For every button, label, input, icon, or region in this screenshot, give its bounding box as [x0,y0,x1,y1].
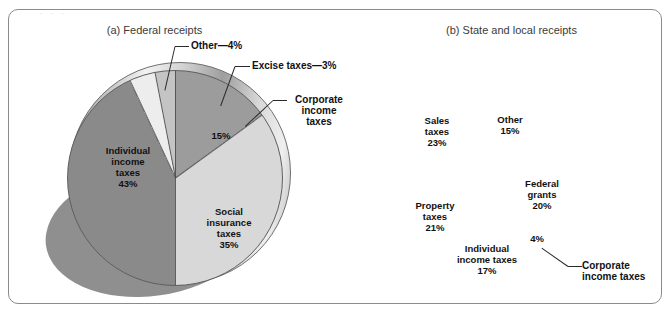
label-line: taxes [400,211,470,222]
slice-label-other: Other 15% [482,114,538,136]
label-line: taxes [83,167,173,178]
label-line: 17% [444,265,530,276]
label-line: Corporate [582,260,645,271]
callout-leader-line [542,248,569,267]
label-line: Social [184,206,274,217]
label-line: taxes [184,228,274,239]
label-line: income [287,105,351,116]
slice-label-individual-income-taxes: Individual income taxes 43% [83,145,173,189]
slice-divider [175,178,176,285]
panel-federal-receipts: (a) Federal receipts Individual income t… [9,10,344,303]
panel-state-local-receipts: (b) State and local receipts Sales taxes… [344,10,662,303]
label-line: 43% [83,178,173,189]
label-line: taxes [287,116,351,127]
figure-frame: · · · (a) Federal receipts Individual in… [8,9,662,304]
panel-a-title: (a) Federal receipts [8,24,322,36]
callout-excise-taxes: Excise taxes—3% [252,60,337,71]
label-line: 23% [406,137,468,148]
label-line: 15% [201,130,241,141]
label-line: income [83,156,173,167]
label-line: income taxes [444,254,530,265]
label-line: 35% [184,239,274,250]
slice-label-sales-taxes: Sales taxes 23% [406,115,468,148]
label-line: Individual [83,145,173,156]
slice-label-federal-grants: Federal grants 20% [512,178,572,211]
slice-label-social-insurance-taxes: Social insurance taxes 35% [184,206,274,250]
callout-corporate-income-taxes: Corporate income taxes [287,94,351,127]
label-line: 15% [482,125,538,136]
label-line: Corporate [287,94,351,105]
label-line: Other [482,114,538,125]
label-line: Property [400,200,470,211]
callout-leader-line [568,266,582,267]
callout-leader-line [235,66,250,67]
label-line: insurance [184,217,274,228]
callout-other: Other—4% [191,40,242,51]
label-line: grants [512,189,572,200]
slice-divider [175,115,262,179]
slice-label-corporate-income-taxes-value: 15% [201,130,241,141]
label-line: Individual [444,243,530,254]
label-line: taxes [406,126,468,137]
callout-leader-line [175,46,189,47]
callout-corporate-income-taxes: Corporate income taxes [582,260,645,282]
label-line: 21% [400,222,470,233]
panel-b-title: (b) State and local receipts [344,24,662,36]
callout-leader-line [273,100,287,101]
label-line: Sales [406,115,468,126]
label-line: income taxes [582,271,645,282]
slice-label-individual-income-taxes: Individual income taxes 17% [444,243,530,276]
slice-divider [175,71,176,178]
label-line: Federal [512,178,572,189]
label-line: 20% [512,200,572,211]
slice-label-property-taxes: Property taxes 21% [400,200,470,233]
